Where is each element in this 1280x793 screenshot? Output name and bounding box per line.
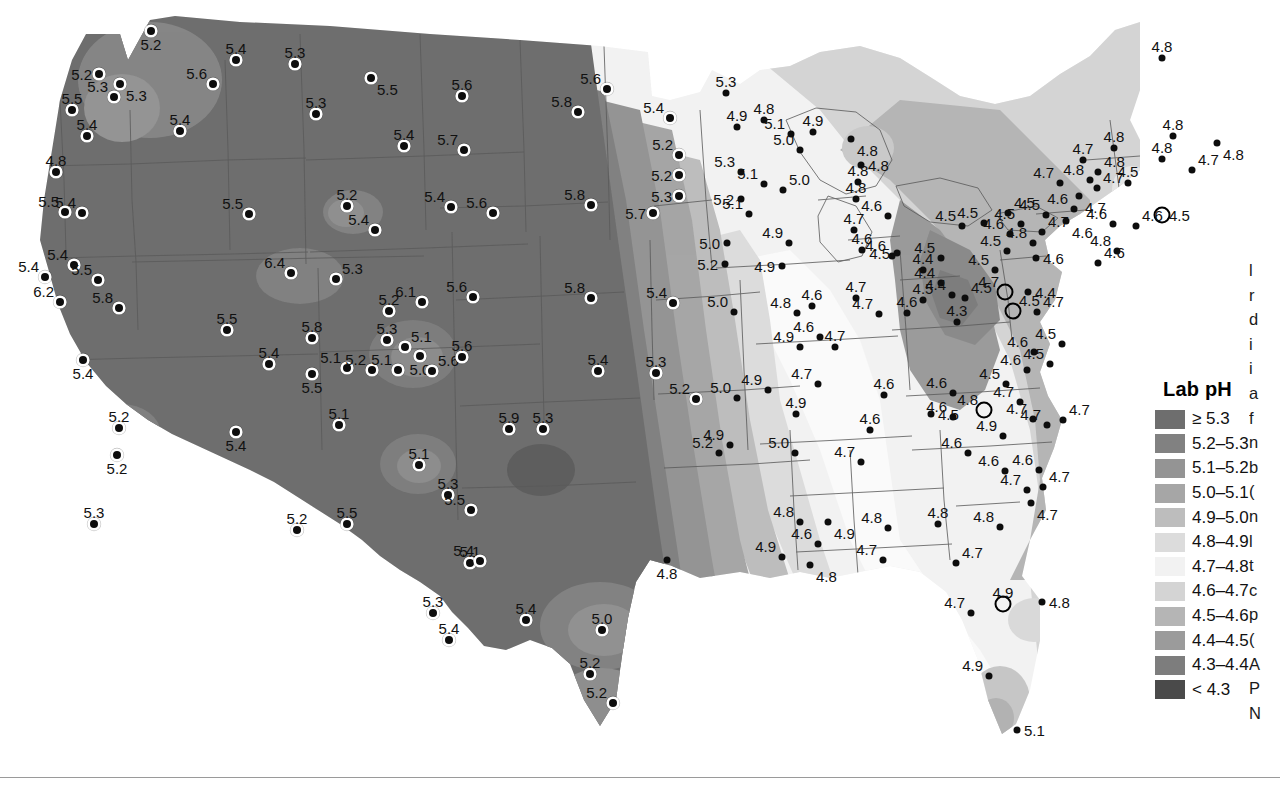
legend-label: 4.9–5.0 [1192,508,1249,528]
caption-line: d [1249,307,1280,332]
legend-row: 4.9–5.0 [1155,505,1247,530]
legend-row: ≥ 5.3 [1155,407,1247,432]
caption-line: f [1249,406,1280,431]
legend-row: 4.7–4.8 [1155,555,1247,580]
legend-swatch [1155,533,1185,552]
station-dot-icon [1214,140,1221,147]
caption-line: l [1249,529,1280,554]
legend-label: 4.3–4.4 [1192,655,1249,675]
figure-page: 5.25.25.35.35.45.35.55.65.55.65.65.35.85… [0,0,1280,793]
legend-swatch [1155,631,1185,650]
legend-label: < 4.3 [1192,680,1230,700]
caption-line: p [1249,602,1280,627]
station-value-label: 4.8 [1152,39,1173,54]
legend-label: 5.1–5.2 [1192,458,1249,478]
legend-row: 4.8–4.9 [1155,530,1247,555]
caption-line: i [1249,356,1280,381]
legend-row: 4.3–4.4 [1155,653,1247,678]
station-dot-icon [1159,156,1166,163]
legend-row: 5.1–5.2 [1155,456,1247,481]
legend-swatch [1155,680,1185,699]
map-legend: Lab pH ≥ 5.35.2–5.35.1–5.25.0–5.14.9–5.0… [1155,378,1247,702]
station-value-label: 4.5 [1169,208,1190,223]
legend-swatch [1155,582,1185,601]
legend-swatch [1155,656,1185,675]
caption-line: ( [1249,479,1280,504]
station-dot-icon [1154,207,1171,224]
station-dot-icon [1170,133,1177,140]
legend-row: 4.6–4.7 [1155,579,1247,604]
caption-line: r [1249,283,1280,308]
caption-line: n [1249,504,1280,529]
caption-line: i [1249,332,1280,357]
legend-row: 5.0–5.1 [1155,481,1247,506]
legend-label: 5.0–5.1 [1192,483,1249,503]
legend-label: 4.4–4.5 [1192,631,1249,651]
caption-line: a [1249,381,1280,406]
station-value-label: 4.6 [1142,208,1163,223]
legend-label: 4.7–4.8 [1192,557,1249,577]
station-value-label: 4.7 [1198,152,1219,167]
caption-line: P [1249,676,1280,701]
legend-swatch [1155,557,1185,576]
station-value-label: 4.8 [1223,147,1244,162]
footer-divider [0,777,1280,778]
legend-swatch [1155,484,1185,503]
legend-swatch [1155,434,1185,453]
caption-line: c [1249,578,1280,603]
caption-line: b [1249,455,1280,480]
caption-line: n [1249,430,1280,455]
legend-label: ≥ 5.3 [1192,409,1230,429]
station-dot-icon [1189,167,1196,174]
caption-line: t [1249,553,1280,578]
lab-ph-map: 5.25.25.35.35.45.35.55.65.55.65.65.35.85… [0,0,1140,750]
caption-line: ( [1249,627,1280,652]
station-value-label: 4.8 [1163,117,1184,132]
station-value-label: 4.8 [1152,140,1173,155]
legend-row: 4.5–4.6 [1155,604,1247,629]
caption-column-clipped: lrdiiafnb(nltcp(APN [1249,258,1280,748]
legend-label: 4.5–4.6 [1192,606,1249,626]
caption-line: l [1249,258,1280,283]
legend-label: 4.8–4.9 [1192,532,1249,552]
legend-swatch [1155,459,1185,478]
legend-row: 4.4–4.5 [1155,628,1247,653]
caption-line: A [1249,652,1280,677]
caption-line: N [1249,701,1280,726]
map-shading-svg [0,0,1140,750]
legend-row: < 4.3 [1155,678,1247,703]
legend-title: Lab pH [1163,378,1247,401]
legend-swatch [1155,607,1185,626]
legend-row: 5.2–5.3 [1155,432,1247,457]
station-dot-icon [1159,55,1166,62]
legend-label: 5.2–5.3 [1192,434,1249,454]
legend-label: 4.6–4.7 [1192,581,1249,601]
legend-swatch [1155,410,1185,429]
legend-rows: ≥ 5.35.2–5.35.1–5.25.0–5.14.9–5.04.8–4.9… [1155,407,1247,702]
legend-swatch [1155,508,1185,527]
